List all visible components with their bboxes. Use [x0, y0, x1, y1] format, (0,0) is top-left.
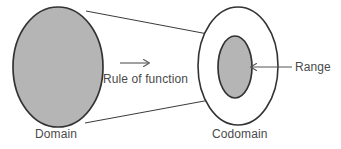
domain-label: Domain — [35, 128, 77, 140]
codomain-label: Codomain — [212, 128, 268, 140]
rule-of-function-label: Rule of function — [103, 73, 188, 85]
range-ellipse — [218, 36, 252, 98]
domain-ellipse — [13, 7, 103, 127]
rule-of-function-arrow-icon — [120, 60, 150, 67]
function-mapping-diagram: Domain Codomain Range Rule of function — [0, 0, 341, 149]
range-label: Range — [295, 61, 331, 73]
